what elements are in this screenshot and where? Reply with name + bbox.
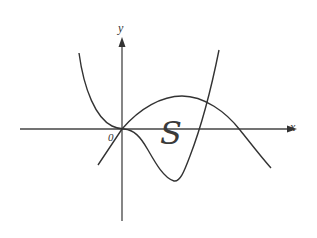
- region-label-s: S: [160, 114, 182, 152]
- origin-label: 0: [108, 131, 114, 143]
- function-graph-figure: y x 0 S: [0, 0, 317, 238]
- curve-parabola: [98, 96, 271, 168]
- y-axis-arrow-icon: [119, 37, 126, 47]
- y-axis-label: y: [118, 21, 123, 36]
- x-axis-label: x: [290, 120, 295, 135]
- graph-canvas: [0, 0, 317, 238]
